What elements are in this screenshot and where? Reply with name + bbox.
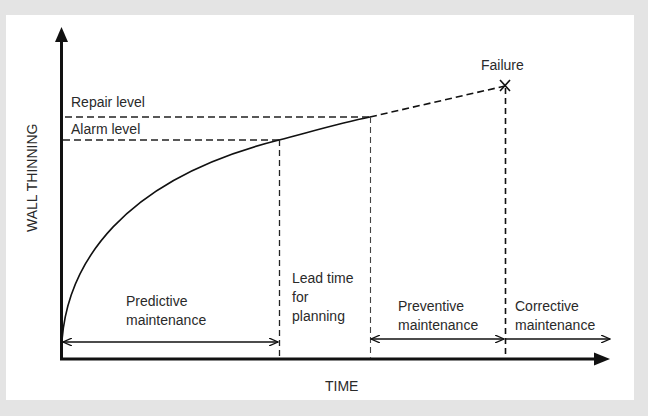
x-axis-label: TIME [325,378,358,394]
preventive-label-line1: Preventive [398,298,464,314]
lead-time-label-line2: for [292,289,309,305]
figure-frame: Repair level Alarm level Failure WALL TH… [0,0,648,416]
corrective-label-line1: Corrective [515,298,579,314]
failure-label: Failure [481,57,524,73]
extrapolated-line [370,86,505,117]
alarm-level-label: Alarm level [71,121,140,137]
preventive-label-line2: maintenance [398,317,478,333]
wall-thinning-diagram: Repair level Alarm level Failure WALL TH… [0,0,648,416]
x-axis-arrow-icon [594,353,610,366]
predictive-label-line1: Predictive [126,293,188,309]
predictive-label-line2: maintenance [126,312,206,328]
repair-level-label: Repair level [71,94,145,110]
y-axis [55,27,68,359]
y-axis-label: WALL THINNING [24,124,40,232]
x-axis [60,353,610,366]
lead-time-label-line1: Lead time [292,270,354,286]
y-axis-arrow-icon [55,27,68,42]
corrective-label-line2: maintenance [515,317,595,333]
thinning-curve [62,117,370,340]
lead-time-label-line3: planning [292,308,345,324]
